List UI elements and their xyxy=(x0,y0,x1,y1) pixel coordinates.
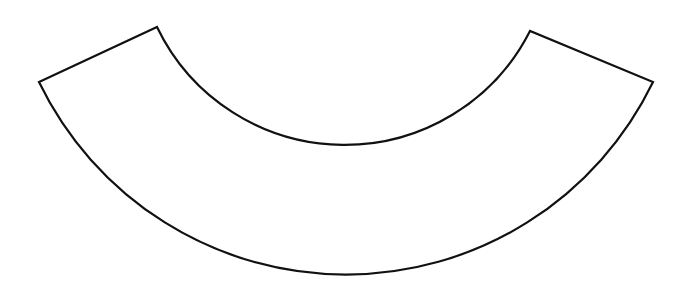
annular-sector-figure xyxy=(0,0,673,287)
diagram-canvas xyxy=(0,0,673,287)
annular-sector-outline xyxy=(39,27,653,275)
